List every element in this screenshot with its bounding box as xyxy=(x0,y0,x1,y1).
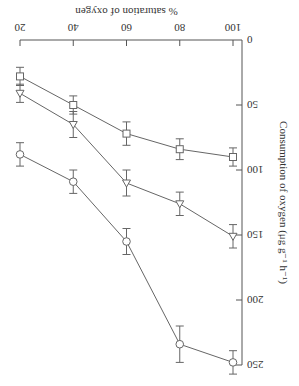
triangle-marker-icon xyxy=(123,180,131,187)
series-layer xyxy=(16,67,237,374)
series-triangle xyxy=(16,84,237,248)
chart: 05010015020025020406080100 % saturation … xyxy=(0,0,299,386)
triangle-marker-icon xyxy=(16,90,24,97)
circle-marker-icon xyxy=(16,151,24,159)
series-square xyxy=(16,67,237,166)
x-tick-label: 60 xyxy=(121,22,133,34)
triangle-marker-icon xyxy=(229,233,237,240)
line-chart: 05010015020025020406080100 % saturation … xyxy=(0,0,299,386)
y-tick-label: 250 xyxy=(247,359,264,371)
square-marker-icon xyxy=(70,102,77,109)
y-axis-title: Consumption of oxygen (μg g⁻¹ h⁻¹) xyxy=(277,121,290,284)
circle-marker-icon xyxy=(229,359,237,367)
x-tick-label: 80 xyxy=(174,22,186,34)
x-tick-label: 20 xyxy=(14,22,26,34)
y-tick-label: 200 xyxy=(247,294,264,306)
axes: 05010015020025020406080100 xyxy=(14,22,264,371)
square-marker-icon xyxy=(123,130,130,137)
square-marker-icon xyxy=(17,73,24,80)
y-tick-label: 50 xyxy=(247,99,259,111)
circle-marker-icon xyxy=(123,238,131,246)
triangle-marker-icon xyxy=(176,201,184,208)
y-tick-label: 150 xyxy=(247,229,264,241)
circle-marker-icon xyxy=(176,340,184,348)
y-tick-label: 100 xyxy=(247,164,264,176)
x-tick-label: 100 xyxy=(224,22,241,34)
x-tick-label: 40 xyxy=(67,22,79,34)
x-axis-title: % saturation of oxygen xyxy=(75,6,178,18)
square-marker-icon xyxy=(230,154,237,161)
y-tick-label: 0 xyxy=(247,34,253,46)
square-marker-icon xyxy=(176,146,183,153)
series-line xyxy=(20,93,233,236)
circle-marker-icon xyxy=(69,178,77,186)
